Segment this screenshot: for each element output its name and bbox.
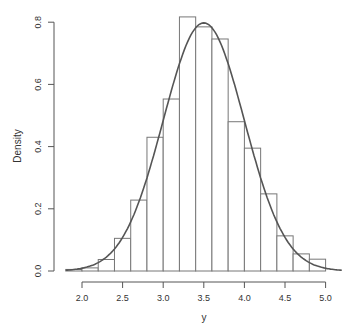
histogram-bars (66, 17, 326, 271)
histogram-bar (114, 238, 130, 271)
y-tick-label: 0.8 (33, 16, 43, 29)
x-tick-label: 3.5 (198, 293, 211, 303)
x-axis-label: y (202, 312, 207, 323)
histogram-bar (244, 148, 260, 271)
histogram-bar (196, 27, 212, 271)
histogram-bar (309, 259, 325, 271)
histogram-bar (212, 39, 228, 271)
x-tick-label: 3.0 (157, 293, 170, 303)
x-tick-label: 5.0 (319, 293, 332, 303)
histogram-chart: 0.00.20.40.60.8 2.02.53.03.54.04.55.0 De… (0, 0, 356, 336)
histogram-bar (147, 137, 163, 271)
y-tick-label: 0.2 (33, 203, 43, 216)
histogram-bar (131, 200, 147, 271)
y-axis: 0.00.20.40.60.8 (33, 16, 54, 277)
y-axis-label: Density (12, 129, 23, 162)
histogram-bar (163, 99, 179, 271)
x-tick-label: 2.5 (116, 293, 129, 303)
histogram-bar (228, 122, 244, 271)
x-tick-label: 4.5 (279, 293, 292, 303)
y-tick-label: 0.6 (33, 78, 43, 91)
y-tick-label: 0.0 (33, 265, 43, 278)
x-axis: 2.02.53.03.54.04.55.0 (76, 282, 332, 303)
histogram-bar (277, 236, 293, 271)
histogram-bar (261, 194, 277, 271)
x-tick-label: 4.0 (238, 293, 251, 303)
y-tick-label: 0.4 (33, 140, 43, 153)
x-tick-label: 2.0 (76, 293, 89, 303)
